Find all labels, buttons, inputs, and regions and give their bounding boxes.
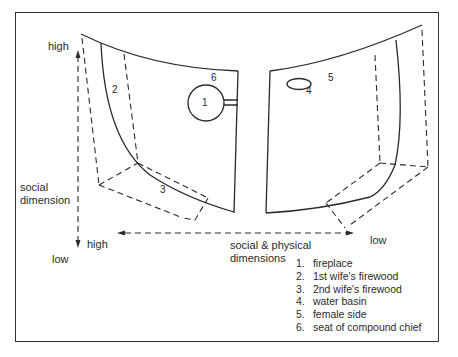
marker-second-wife-firewood: 3 (160, 184, 166, 195)
left-room-curved-wall (101, 43, 234, 212)
legend-item: 4. water basin (296, 295, 422, 308)
legend-item: 2. 1st wife's firewood (296, 270, 422, 283)
arrow-right-icon (346, 231, 354, 236)
horizontal-axis-label-line1: social & physical (230, 239, 311, 251)
vertical-axis-low-label: low (52, 253, 69, 265)
arrow-down-icon (76, 240, 81, 248)
legend-item: 6. seat of compound chief (296, 321, 422, 334)
vertical-axis-label-line1: social (20, 181, 48, 193)
legend-item: 3. 2nd wife's firewood (296, 283, 422, 296)
marker-first-wife-firewood: 2 (112, 84, 118, 95)
left-room-top-edge (81, 34, 238, 71)
right-room-bottom-edge (266, 197, 370, 213)
legend: 1. fireplace 2. 1st wife's firewood 3. 2… (296, 257, 422, 334)
horizontal-axis-label-line2: dimensions (230, 252, 286, 264)
arrow-up-icon (76, 50, 81, 58)
marker-female-side: 5 (328, 72, 334, 83)
right-room-left-edge (266, 71, 270, 213)
vertical-axis-label: dimension (20, 194, 70, 206)
marker-fireplace: 1 (202, 97, 208, 108)
right-room-curved-wall (370, 40, 400, 197)
left-room-right-edge (234, 71, 238, 213)
marker-water-basin: 4 (306, 85, 312, 96)
horizontal-axis-high-label: high (87, 238, 108, 250)
right-room-top-edge (270, 25, 422, 71)
arrow-left-icon (117, 231, 125, 236)
horizontal-axis-low-label: low (370, 234, 387, 246)
vertical-axis-high-label: high (48, 40, 69, 52)
legend-item: 5. female side (296, 308, 422, 321)
marker-seat-of-chief: 6 (211, 72, 217, 83)
legend-item: 1. fireplace (296, 257, 422, 270)
